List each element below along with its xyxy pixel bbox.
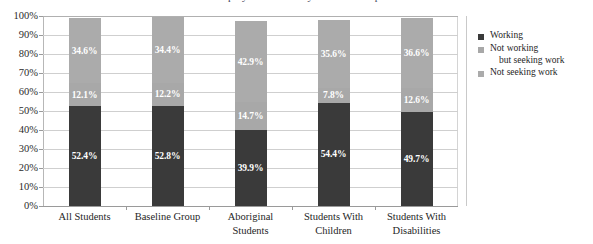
x-axis-label-line: Students bbox=[209, 224, 292, 238]
x-axis-tick bbox=[375, 206, 376, 210]
x-axis-label-line: Students With bbox=[292, 210, 375, 224]
bar-value-label: 35.6% bbox=[321, 49, 347, 59]
bar-segment[interactable]: 36.6% bbox=[401, 18, 433, 88]
bar-group[interactable]: 52.4%12.1%34.6% bbox=[69, 16, 101, 206]
bar-group[interactable]: 52.8%12.2%34.4% bbox=[152, 16, 184, 206]
bar-segment[interactable]: 34.6% bbox=[69, 18, 101, 84]
y-axis-tick-label: 30% bbox=[0, 144, 38, 155]
legend-item[interactable]: Not seeking work bbox=[478, 67, 590, 79]
legend-swatch-icon bbox=[478, 71, 484, 77]
bar-segment[interactable]: 12.2% bbox=[152, 83, 184, 106]
bar-value-label: 36.6% bbox=[404, 48, 430, 58]
x-axis-label-line: Disabilities bbox=[375, 224, 458, 238]
y-axis-tick-label: 100% bbox=[0, 11, 38, 22]
bar-segment[interactable]: 12.1% bbox=[69, 83, 101, 106]
y-axis-tick bbox=[39, 92, 43, 93]
legend-divider bbox=[466, 16, 467, 206]
y-axis-tick-label: 70% bbox=[0, 68, 38, 79]
bars-layer: 52.4%12.1%34.6%52.8%12.2%34.4%39.9%14.7%… bbox=[43, 16, 458, 206]
y-axis-tick-label: 60% bbox=[0, 87, 38, 98]
bar-value-label: 52.4% bbox=[72, 151, 98, 161]
bar-segment[interactable]: 35.6% bbox=[318, 20, 350, 88]
bar-value-label: 12.1% bbox=[72, 90, 98, 100]
legend-item[interactable]: Not workingbut seeking work bbox=[478, 43, 590, 66]
y-axis-tick-label: 40% bbox=[0, 125, 38, 136]
legend-label: Working bbox=[490, 30, 523, 42]
y-axis-tick bbox=[39, 187, 43, 188]
x-axis-label-line: Children bbox=[292, 224, 375, 238]
x-axis-tick bbox=[126, 206, 127, 210]
x-axis-category-label: All Students bbox=[43, 210, 126, 224]
y-axis-tick bbox=[39, 168, 43, 169]
bar-segment[interactable]: 34.4% bbox=[152, 17, 184, 82]
legend-label-line1: Not working bbox=[490, 43, 538, 53]
legend-label-line1: Working bbox=[490, 30, 523, 40]
bar-segment[interactable]: 52.4% bbox=[69, 106, 101, 206]
legend-label: Not workingbut seeking work bbox=[490, 43, 564, 66]
legend-swatch-icon bbox=[478, 47, 484, 53]
y-axis-tick bbox=[39, 35, 43, 36]
gridline bbox=[43, 206, 458, 207]
bar-value-label: 7.8% bbox=[323, 90, 344, 100]
x-axis-tick bbox=[209, 206, 210, 210]
chart-title-remnant: Employment Status by Student Group bbox=[0, 0, 593, 9]
legend-item[interactable]: Working bbox=[478, 30, 590, 42]
x-axis: All StudentsBaseline GroupAboriginalStud… bbox=[43, 210, 458, 244]
bar-value-label: 34.4% bbox=[155, 45, 181, 55]
bar-value-label: 52.8% bbox=[155, 151, 181, 161]
bar-value-label: 12.6% bbox=[404, 95, 430, 105]
y-axis-tick bbox=[39, 149, 43, 150]
x-axis-category-label: AboriginalStudents bbox=[209, 210, 292, 237]
chart-title-text: Employment Status by Student Group bbox=[213, 0, 380, 2]
y-axis-tick bbox=[39, 73, 43, 74]
x-axis-label-line: Aboriginal bbox=[209, 210, 292, 224]
y-axis-tick-label: 50% bbox=[0, 106, 38, 117]
bar-value-label: 14.7% bbox=[238, 111, 264, 121]
stacked-bar-chart: Employment Status by Student Group 100%9… bbox=[0, 0, 593, 244]
legend-swatch-icon bbox=[478, 34, 484, 40]
y-axis-tick-label: 80% bbox=[0, 49, 38, 60]
bar-value-label: 39.9% bbox=[238, 163, 264, 173]
legend-label: Not seeking work bbox=[490, 67, 558, 79]
legend: WorkingNot workingbut seeking workNot se… bbox=[478, 30, 590, 80]
bar-segment[interactable]: 14.7% bbox=[235, 102, 267, 130]
bar-segment[interactable]: 12.6% bbox=[401, 88, 433, 112]
legend-label-line2: but seeking work bbox=[490, 55, 564, 67]
y-axis-tick bbox=[39, 206, 43, 207]
bar-segment[interactable]: 49.7% bbox=[401, 112, 433, 206]
y-axis-tick-label: 20% bbox=[0, 163, 38, 174]
bar-value-label: 54.4% bbox=[321, 149, 347, 159]
bar-value-label: 49.7% bbox=[404, 154, 430, 164]
plot-area: 52.4%12.1%34.6%52.8%12.2%34.4%39.9%14.7%… bbox=[43, 16, 458, 206]
x-axis-label-line: All Students bbox=[43, 210, 126, 224]
y-axis: 100%90%80%70%60%50%40%30%20%10%0% bbox=[0, 16, 38, 206]
y-axis-tick-label: 90% bbox=[0, 30, 38, 41]
bar-segment[interactable]: 7.8% bbox=[318, 88, 350, 103]
y-axis-tick bbox=[39, 54, 43, 55]
y-axis-tick-label: 0% bbox=[0, 201, 38, 212]
bar-group[interactable]: 54.4%7.8%35.6% bbox=[318, 16, 350, 206]
bar-segment[interactable]: 54.4% bbox=[318, 103, 350, 206]
y-axis-tick-label: 10% bbox=[0, 182, 38, 193]
x-axis-tick bbox=[292, 206, 293, 210]
bar-value-label: 42.9% bbox=[238, 57, 264, 67]
bar-group[interactable]: 49.7%12.6%36.6% bbox=[401, 16, 433, 206]
y-axis-tick bbox=[39, 16, 43, 17]
y-axis-tick bbox=[39, 111, 43, 112]
bar-segment[interactable]: 42.9% bbox=[235, 21, 267, 103]
legend-label-line1: Not seeking work bbox=[490, 67, 558, 77]
bar-group[interactable]: 39.9%14.7%42.9% bbox=[235, 16, 267, 206]
bar-segment[interactable]: 52.8% bbox=[152, 106, 184, 206]
x-axis-category-label: Students WithDisabilities bbox=[375, 210, 458, 237]
bar-value-label: 12.2% bbox=[155, 89, 181, 99]
x-axis-category-label: Students WithChildren bbox=[292, 210, 375, 237]
x-axis-label-line: Students With bbox=[375, 210, 458, 224]
x-axis-label-line: Baseline Group bbox=[126, 210, 209, 224]
x-axis-category-label: Baseline Group bbox=[126, 210, 209, 224]
bar-segment[interactable]: 39.9% bbox=[235, 130, 267, 206]
y-axis-tick bbox=[39, 130, 43, 131]
bar-value-label: 34.6% bbox=[72, 46, 98, 56]
